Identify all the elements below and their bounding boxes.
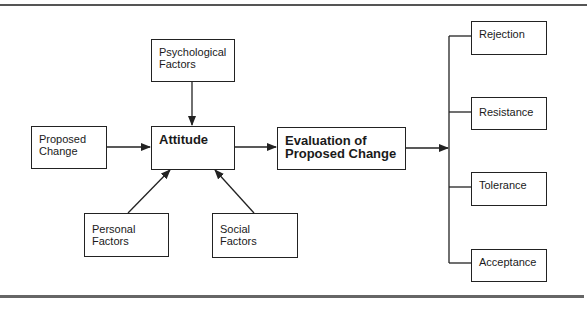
proposed-change-label-2: Change <box>39 145 99 157</box>
evaluation-box: Evaluation of Proposed Change <box>277 127 406 170</box>
rejection-label: Rejection <box>479 28 539 40</box>
social-factors-label-1: Social <box>220 223 290 235</box>
tolerance-label: Tolerance <box>479 179 539 191</box>
resistance-label: Resistance <box>479 106 539 118</box>
social-factors-label-2: Factors <box>220 235 290 247</box>
psychological-factors-label-2: Factors <box>159 58 227 70</box>
proposed-change-box: Proposed Change <box>31 126 107 169</box>
proposed-change-label-1: Proposed <box>39 133 99 145</box>
attitude-label: Attitude <box>159 133 227 146</box>
attitude-box: Attitude <box>151 126 235 170</box>
evaluation-label-2: Proposed Change <box>285 147 398 160</box>
psychological-factors-label-1: Psychological <box>159 46 227 58</box>
rejection-box: Rejection <box>471 21 547 55</box>
personal-factors-box: Personal Factors <box>84 213 169 257</box>
acceptance-label: Acceptance <box>479 256 539 268</box>
social-factors-box: Social Factors <box>212 213 298 258</box>
acceptance-box: Acceptance <box>471 249 547 282</box>
personal-factors-label-1: Personal <box>92 223 161 235</box>
psychological-factors-box: Psychological Factors <box>151 39 235 82</box>
resistance-box: Resistance <box>471 97 547 130</box>
tolerance-box: Tolerance <box>471 172 547 206</box>
personal-factors-label-2: Factors <box>92 235 161 247</box>
